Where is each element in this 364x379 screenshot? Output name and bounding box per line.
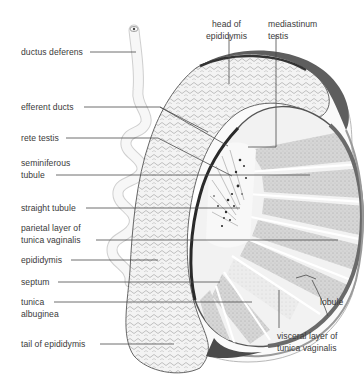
label-septum: septum [21,276,49,288]
label-seminiferous-tubule: seminiferous tubule [21,157,70,181]
label-rete-testis: rete testis [21,132,59,144]
anatomy-diagram: ductus deferens efferent ducts rete test… [0,0,364,379]
label-tunica-albuginea: tunica albuginea [21,296,59,320]
label-epididymis: epididymis [21,254,62,266]
label-straight-tubule: straight tubule [21,202,76,214]
label-visceral-layer-tunica-vaginalis: visceral layer of tunica vaginalis [277,330,338,354]
label-efferent-ducts: efferent ducts [21,101,74,113]
label-parietal-layer-tunica-vaginalis: parietal layer of tunica vaginalis [21,222,81,246]
label-mediastinum-testis: mediastinum testis [268,18,317,42]
label-head-of-epididymis: head of epididymis [206,18,247,42]
label-lobule: lobule [320,296,343,308]
label-tail-of-epididymis: tail of epididymis [21,338,85,350]
label-ductus-deferens: ductus deferens [21,46,83,58]
